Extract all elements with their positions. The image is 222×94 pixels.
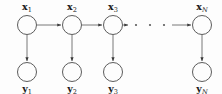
state-space-model-diagram: x1x2x3xNy1y2y3yN <box>0 0 222 94</box>
observed-node-y2[interactable] <box>63 63 82 82</box>
node-label-x2: x2 <box>67 1 77 14</box>
graph-canvas: x1x2x3xNy1y2y3yN <box>0 0 222 94</box>
ellipsis-dot-2 <box>149 24 151 26</box>
observed-node-y1[interactable] <box>18 63 37 82</box>
label-subscript-x2: 2 <box>73 6 77 14</box>
node-label-x3: x3 <box>108 1 118 14</box>
observed-node-y3[interactable] <box>104 63 123 82</box>
ellipsis-dot-3 <box>163 24 165 26</box>
node-label-xN: xN <box>196 1 208 14</box>
node-label-y3: y3 <box>107 83 118 94</box>
observed-node-yN[interactable] <box>193 63 212 82</box>
node-labels-group: x1x2x3xNy1y2y3yN <box>21 1 208 94</box>
label-subscript-xN: N <box>201 6 208 14</box>
node-label-yN: yN <box>195 83 208 94</box>
label-subscript-x1: 1 <box>28 6 32 14</box>
label-subscript-y1: 1 <box>28 88 32 94</box>
label-subscript-y2: 2 <box>73 88 77 94</box>
latent-node-x3[interactable] <box>104 16 123 35</box>
latent-node-xN[interactable] <box>193 16 212 35</box>
label-subscript-x3: 3 <box>114 6 118 14</box>
latent-node-x1[interactable] <box>18 16 37 35</box>
node-label-y1: y1 <box>21 83 32 94</box>
ellipsis-dots-group <box>135 24 165 26</box>
node-label-y2: y2 <box>66 83 77 94</box>
label-subscript-y3: 3 <box>114 88 118 94</box>
latent-node-x2[interactable] <box>63 16 82 35</box>
emission-edges-group <box>27 35 202 61</box>
observed-variable-nodes-group <box>18 63 212 82</box>
ellipsis-dot-1 <box>135 24 137 26</box>
label-subscript-yN: N <box>201 88 208 94</box>
node-label-x1: x1 <box>22 1 32 14</box>
